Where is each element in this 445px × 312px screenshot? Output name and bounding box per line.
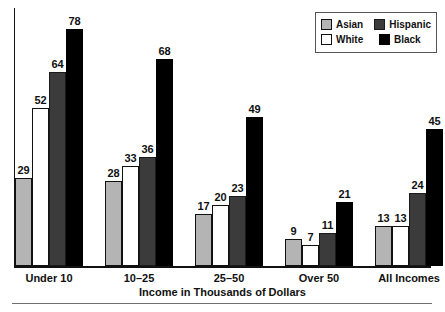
bar-column: 52 xyxy=(32,8,49,266)
bar-white[interactable] xyxy=(122,166,139,266)
legend-item-black: Black xyxy=(379,34,421,45)
bar-black[interactable] xyxy=(66,29,83,266)
legend-label: White xyxy=(336,34,363,45)
bar-value-label: 24 xyxy=(411,180,423,191)
bar-column: 29 xyxy=(15,8,32,266)
bar-column: 17 xyxy=(195,8,212,266)
bar-column: 36 xyxy=(139,8,156,266)
footer-divider xyxy=(12,303,432,304)
bar-group: 28333668 xyxy=(105,8,173,266)
bar-asian[interactable] xyxy=(285,239,302,266)
bar-white[interactable] xyxy=(302,245,319,266)
bar-value-label: 13 xyxy=(377,213,389,224)
legend: Asian Hispanic White Black xyxy=(315,12,437,53)
bar-asian[interactable] xyxy=(15,178,32,266)
bar-asian[interactable] xyxy=(195,214,212,266)
legend-swatch-icon xyxy=(321,19,332,30)
bar-asian[interactable] xyxy=(375,226,392,266)
bar-hispanic[interactable] xyxy=(319,233,336,266)
legend-swatch-icon xyxy=(374,19,385,30)
bar-group: 17202349 xyxy=(195,8,263,266)
legend-row: White Black xyxy=(321,32,431,47)
legend-swatch-icon xyxy=(379,34,390,45)
bar-value-label: 7 xyxy=(307,232,313,243)
bar-column: 23 xyxy=(229,8,246,266)
bar-value-label: 52 xyxy=(34,95,46,106)
bar-value-label: 36 xyxy=(141,144,153,155)
bar-value-label: 49 xyxy=(248,104,260,115)
legend-label: Hispanic xyxy=(389,19,431,30)
bar-value-label: 21 xyxy=(338,189,350,200)
legend-swatch-icon xyxy=(321,34,332,45)
bar-hispanic[interactable] xyxy=(229,196,246,266)
bar-column: 9 xyxy=(285,8,302,266)
bar-black[interactable] xyxy=(246,117,263,266)
bar-white[interactable] xyxy=(32,108,49,266)
legend-item-white: White xyxy=(321,34,379,45)
x-axis-title: Income in Thousands of Dollars xyxy=(0,286,445,298)
bar-value-label: 13 xyxy=(394,213,406,224)
bar-chart-figure: 29526478283336681720234997112113132445 U… xyxy=(0,0,445,312)
bar-black[interactable] xyxy=(156,59,173,266)
bar-black[interactable] xyxy=(426,129,443,266)
bar-value-label: 17 xyxy=(197,201,209,212)
legend-item-hispanic: Hispanic xyxy=(374,19,431,30)
bar-column: 68 xyxy=(156,8,173,266)
bar-white[interactable] xyxy=(392,226,409,266)
bar-group: 29526478 xyxy=(15,8,83,266)
bar-hispanic[interactable] xyxy=(49,72,66,266)
category-label: Under 10 xyxy=(25,271,72,285)
bar-value-label: 68 xyxy=(158,46,170,57)
bar-hispanic[interactable] xyxy=(409,193,426,266)
category-labels: Under 1010–2525–50Over 50All Incomes xyxy=(15,271,431,285)
legend-row: Asian Hispanic xyxy=(321,17,431,32)
bar-column: 49 xyxy=(246,8,263,266)
category-label: All Incomes xyxy=(378,271,440,285)
bar-value-label: 33 xyxy=(124,153,136,164)
bar-value-label: 64 xyxy=(51,59,63,70)
bar-column: 20 xyxy=(212,8,229,266)
x-axis-line xyxy=(14,266,431,268)
bar-column: 28 xyxy=(105,8,122,266)
bar-value-label: 9 xyxy=(290,226,296,237)
bar-hispanic[interactable] xyxy=(139,157,156,266)
bar-value-label: 28 xyxy=(107,168,119,179)
bar-value-label: 29 xyxy=(17,165,29,176)
bar-black[interactable] xyxy=(336,202,353,266)
bar-column: 33 xyxy=(122,8,139,266)
legend-label: Asian xyxy=(336,19,363,30)
legend-item-asian: Asian xyxy=(321,19,374,30)
legend-label: Black xyxy=(394,34,421,45)
bar-white[interactable] xyxy=(212,205,229,266)
category-label: 10–25 xyxy=(124,271,155,285)
bar-column: 64 xyxy=(49,8,66,266)
category-label: Over 50 xyxy=(299,271,339,285)
bar-value-label: 23 xyxy=(231,183,243,194)
bar-value-label: 20 xyxy=(214,192,226,203)
category-label: 25–50 xyxy=(214,271,245,285)
bar-column: 78 xyxy=(66,8,83,266)
bar-asian[interactable] xyxy=(105,181,122,266)
bar-value-label: 11 xyxy=(322,220,334,231)
bar-value-label: 45 xyxy=(428,116,440,127)
bar-value-label: 78 xyxy=(68,16,80,27)
